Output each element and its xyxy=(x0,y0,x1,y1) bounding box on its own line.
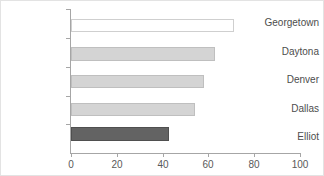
x-axis-tick-label: 100 xyxy=(280,159,320,171)
bar-daytona xyxy=(71,47,215,61)
category-label-dallas: Dallas xyxy=(257,103,323,115)
x-axis-tick xyxy=(254,153,255,157)
y-axis-tick xyxy=(66,124,70,125)
x-axis-tick-label: 60 xyxy=(188,159,228,171)
x-axis-tick-label: 40 xyxy=(143,159,183,171)
y-axis-tick xyxy=(66,9,70,10)
x-axis-tick-label: 20 xyxy=(97,159,137,171)
bar-chart: 0 20 40 60 80 100 Georgetown Daytona Den… xyxy=(0,0,324,176)
x-axis-tick xyxy=(71,153,72,157)
x-axis-tick xyxy=(300,153,301,157)
bar-georgetown xyxy=(71,19,234,32)
bar-elliot xyxy=(71,127,169,141)
x-axis-tick xyxy=(163,153,164,157)
bar-dallas xyxy=(71,103,195,116)
y-axis-tick xyxy=(66,67,70,68)
category-label-daytona: Daytona xyxy=(257,46,323,58)
category-label-elliot: Elliot xyxy=(257,131,323,143)
x-axis-tick-label: 0 xyxy=(51,159,91,171)
category-label-denver: Denver xyxy=(257,74,323,86)
y-axis-tick xyxy=(66,96,70,97)
bar-denver xyxy=(71,75,204,88)
x-axis-tick-label: 80 xyxy=(234,159,274,171)
y-axis-tick xyxy=(66,38,70,39)
category-label-georgetown: Georgetown xyxy=(257,17,323,29)
x-axis-tick xyxy=(117,153,118,157)
x-axis-line xyxy=(71,153,301,154)
x-axis-tick xyxy=(208,153,209,157)
